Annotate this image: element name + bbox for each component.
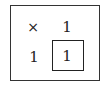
cell-r1-c0: 1	[24, 47, 44, 67]
cell-r0-c1: 1	[57, 17, 77, 37]
cell-r1-c1-highlighted: 1	[57, 46, 77, 66]
cell-r0-c0: ×	[23, 17, 43, 37]
